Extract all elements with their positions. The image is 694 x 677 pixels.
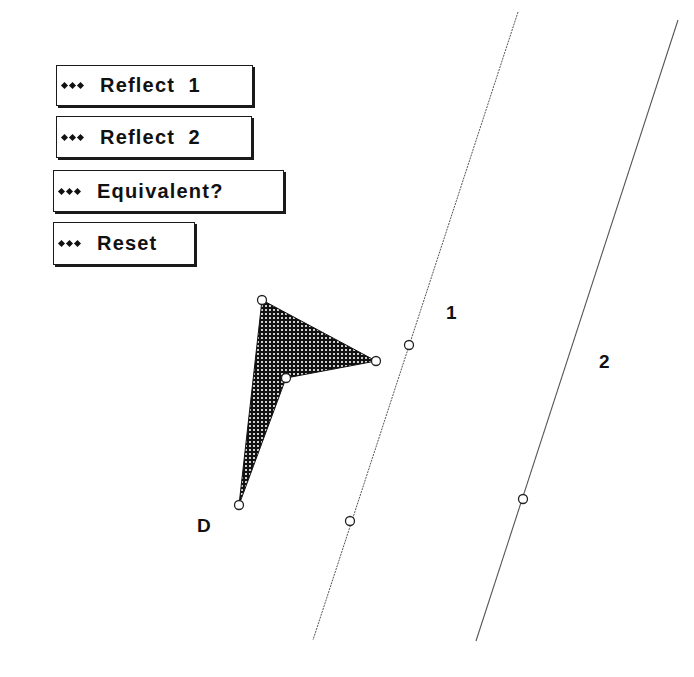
reset-button[interactable]: Reset	[53, 222, 195, 265]
vertex-inner-point[interactable]	[282, 374, 291, 383]
bullet-diamonds-icon	[59, 241, 80, 246]
point-d-label: D	[197, 516, 211, 535]
mirror-line-1[interactable]	[313, 12, 518, 640]
bullet-diamonds-icon	[62, 83, 83, 88]
line-2-label: 2	[599, 352, 610, 371]
vertex-right-point[interactable]	[372, 357, 381, 366]
equivalent-button[interactable]: Equivalent?	[53, 170, 284, 212]
reset-label: Reset	[97, 232, 157, 255]
line1-lower-point[interactable]	[346, 517, 355, 526]
reflect-2-button[interactable]: Reflect 2	[56, 116, 252, 158]
reflect-1-button[interactable]: Reflect 1	[56, 65, 253, 106]
line2-point[interactable]	[519, 495, 528, 504]
dart-quadrilateral[interactable]	[239, 300, 376, 505]
mirror-line-2[interactable]	[476, 20, 678, 641]
equivalent-label: Equivalent?	[97, 180, 224, 203]
reflect-2-label: Reflect 2	[100, 126, 201, 149]
line1-upper-point[interactable]	[405, 341, 414, 350]
reflect-1-label: Reflect 1	[100, 74, 201, 97]
vertex-top-point[interactable]	[258, 296, 267, 305]
bullet-diamonds-icon	[59, 189, 80, 194]
bullet-diamonds-icon	[62, 135, 83, 140]
line-1-label: 1	[446, 303, 457, 322]
vertex-d-point[interactable]	[235, 501, 244, 510]
